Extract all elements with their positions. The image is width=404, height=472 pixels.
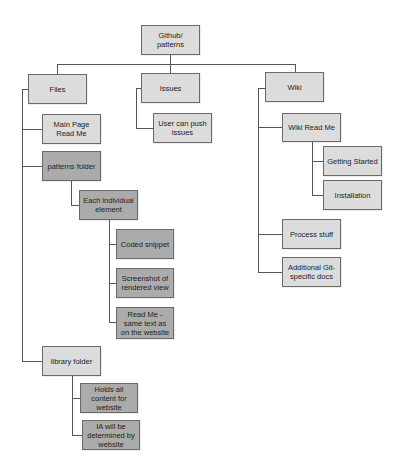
node-getting-started: Getting Started [323,146,382,176]
connector [312,142,313,196]
connector [72,376,73,435]
connector [71,205,79,206]
connector [258,88,259,273]
connector [258,88,265,89]
connector [170,64,171,73]
node-wiki-readme: Wiki Read Me [282,113,341,142]
connector [57,64,58,74]
node-files: Files [28,74,87,104]
node-ia-determined: IA will be determined by website [82,420,140,450]
node-process-stuff: Process stuff [282,219,341,249]
node-holds-all-content: Holds all content for website [80,383,138,413]
node-additional-git-docs: Additional Git-specific docs [282,257,341,287]
connector [136,128,153,129]
connector [22,129,42,130]
connector [57,64,296,65]
node-wiki: Wiki [265,72,324,102]
connector [22,361,42,362]
node-installation: Installation [323,180,382,210]
node-screenshot: Screenshot of rendered view [116,268,174,298]
node-readme-same-text: Read Me - same text as on the website [116,307,174,339]
connector [258,272,282,273]
connector [109,283,116,284]
connector [109,244,116,245]
connector [22,166,42,167]
connector [109,322,116,323]
connector [312,161,323,162]
connector [170,55,171,64]
node-main-page-readme: Main Page Read Me [42,114,101,144]
node-user-push-issues: User can push issues [153,113,212,143]
connector [72,435,82,436]
node-patterns-folder: patterns folder [42,151,101,181]
connector [72,398,80,399]
node-root: Github/ patterns [141,25,200,55]
node-issues: Issues [141,73,200,103]
node-coded-snippet: Coded snippet [116,229,174,259]
connector [109,220,110,323]
connector [136,88,137,129]
connector [258,234,282,235]
connector [258,127,282,128]
connector [295,64,296,72]
node-each-element: Each individual element [79,190,138,220]
node-library-folder: library folder [42,346,101,376]
connector [312,195,323,196]
connector [71,181,72,206]
